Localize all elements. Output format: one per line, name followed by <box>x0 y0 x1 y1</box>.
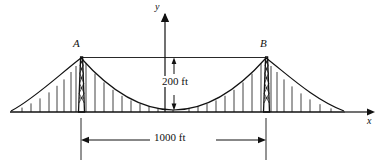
sag-arrow-up <box>172 58 177 65</box>
x-axis-label: x <box>367 116 371 126</box>
sag-dimension-label: 200 ft <box>160 76 190 87</box>
y-axis <box>162 14 168 112</box>
y-axis-label: y <box>155 2 159 12</box>
hangers-right-side-span <box>271 66 331 112</box>
tower-b-label: B <box>260 38 267 49</box>
span-arrow-right <box>258 137 266 143</box>
tower-a-label: A <box>73 38 80 49</box>
span-arrow-left <box>81 137 89 143</box>
hangers-left-side-span <box>22 66 76 112</box>
tower-B <box>263 57 270 112</box>
tower-A <box>78 57 85 112</box>
span-dimension-label: 1000 ft <box>152 132 187 143</box>
y-axis-arrowhead <box>162 14 168 22</box>
right-back-stay-cable <box>266 58 344 111</box>
diagram-canvas <box>0 0 386 165</box>
suspension-bridge-figure: A B y x 200 ft 1000 ft <box>0 0 386 165</box>
left-back-stay-cable <box>11 58 81 111</box>
